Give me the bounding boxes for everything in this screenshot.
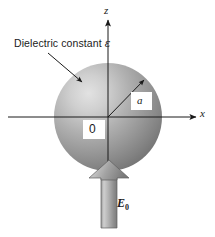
origin-label-box: 0 xyxy=(83,120,105,139)
field-arrow xyxy=(89,160,129,228)
dielectric-constant-text: Dielectric constant xyxy=(14,37,102,49)
z-axis-label: z xyxy=(104,5,108,16)
radius-label: a xyxy=(137,95,143,106)
origin-label: 0 xyxy=(89,123,96,135)
field-symbol: E xyxy=(117,196,125,210)
epsilon-symbol: ε xyxy=(105,37,111,49)
field-subscript: 0 xyxy=(125,203,129,212)
figure-canvas xyxy=(0,0,215,237)
radius-label-box: a xyxy=(131,92,152,110)
dielectric-label-leader xyxy=(48,53,82,82)
field-strength-label: E0 xyxy=(117,197,129,212)
dielectric-constant-label: Dielectric constant ε xyxy=(14,38,110,49)
x-axis-label: x xyxy=(200,108,205,119)
dielectric-sphere-figure: Dielectric constant ε z x a 0 E0 xyxy=(0,0,215,237)
